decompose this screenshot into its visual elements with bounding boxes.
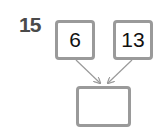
arrow-right-icon <box>108 60 132 83</box>
answer-box[interactable] <box>76 86 131 127</box>
input-box-right: 13 <box>113 20 153 60</box>
problem-number: 15 <box>19 14 40 35</box>
input-value-left: 6 <box>69 28 81 52</box>
arrow-left-icon <box>76 60 100 83</box>
input-value-right: 13 <box>121 28 144 52</box>
input-box-left: 6 <box>55 20 95 60</box>
